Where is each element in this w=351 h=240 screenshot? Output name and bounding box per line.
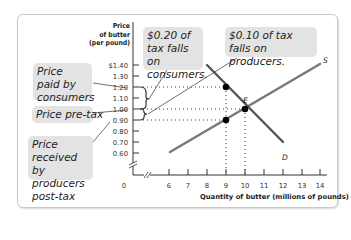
svg-text:13: 13 — [298, 182, 307, 190]
svg-text:8: 8 — [205, 182, 209, 190]
producer-price-point — [223, 117, 230, 124]
y-tick-labels: $1.40 1.30 1.20 1.10 1.00 0.90 0.80 0.70… — [109, 62, 128, 158]
producer-tax-bracket — [140, 109, 147, 120]
x-tick-labels: 0 6 7 8 9 10 11 12 13 14 — [122, 182, 324, 190]
reference-lines — [139, 87, 245, 175]
callout-consumer-share: $0.20 of tax falls on consumers. — [143, 27, 203, 70]
x-axis-label: Quantity of butter (millions of pounds) — [200, 193, 349, 201]
callout-producer-price: Price received by producers post-tax — [28, 136, 93, 180]
svg-text:0.70: 0.70 — [113, 139, 128, 147]
consumer-tax-bracket — [140, 87, 149, 109]
svg-text:1.00: 1.00 — [113, 106, 128, 114]
svg-text:0: 0 — [122, 182, 126, 190]
svg-text:$1.40: $1.40 — [109, 62, 128, 70]
svg-text:1.10: 1.10 — [113, 95, 128, 103]
callout-consumer-price: Price paid by consumers post-tax — [33, 63, 92, 101]
demand-label: D — [282, 153, 288, 162]
svg-text:0.90: 0.90 — [113, 117, 128, 125]
svg-text:10: 10 — [241, 182, 250, 190]
svg-text:12: 12 — [279, 182, 288, 190]
supply-label: S — [323, 56, 328, 65]
consumer-price-point — [223, 84, 230, 91]
svg-text:7: 7 — [186, 182, 190, 190]
x-axis-break-icon — [144, 172, 151, 178]
svg-text:11: 11 — [260, 182, 269, 190]
callout-pretax-price: Price pre-tax — [32, 106, 93, 123]
svg-text:1.30: 1.30 — [113, 73, 128, 81]
svg-text:0.60: 0.60 — [113, 150, 128, 158]
callout-producer-share: $0.10 of tax falls on producers. — [225, 27, 317, 57]
svg-text:14: 14 — [316, 182, 325, 190]
svg-text:9: 9 — [224, 182, 228, 190]
svg-text:0.80: 0.80 — [113, 128, 128, 136]
equilibrium-point — [242, 106, 249, 113]
svg-text:6: 6 — [167, 182, 171, 190]
equilibrium-label: E — [243, 96, 248, 105]
